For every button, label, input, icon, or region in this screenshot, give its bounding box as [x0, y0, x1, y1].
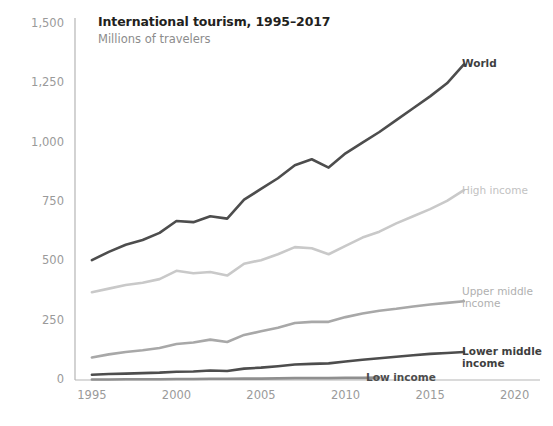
series-label: High income — [462, 184, 528, 196]
series-line-high-income — [92, 190, 464, 292]
y-tick-label: 500 — [8, 253, 64, 267]
series-label: Lower middle income — [462, 345, 542, 369]
y-tick-label: 1,250 — [8, 75, 64, 89]
series-label: Low income — [366, 371, 436, 383]
y-tick-label: 750 — [8, 194, 64, 208]
x-tick-label: 2015 — [415, 388, 444, 402]
x-tick-label: 1995 — [77, 388, 106, 402]
series-line-low-income — [92, 378, 379, 380]
y-tick-label: 1,000 — [8, 135, 64, 149]
y-tick-label: 0 — [8, 372, 64, 386]
x-tick-label: 2000 — [162, 388, 191, 402]
series-label: Upper middle income — [462, 285, 533, 309]
x-tick-label: 2010 — [331, 388, 360, 402]
x-tick-label: 2020 — [500, 388, 529, 402]
x-tick-label: 2005 — [246, 388, 275, 402]
series-line-world — [92, 64, 464, 260]
series-line-upper-middle-income — [92, 301, 464, 357]
y-tick-label: 1,500 — [8, 16, 64, 30]
chart-container: International tourism, 1995–2017 Million… — [0, 0, 553, 426]
series-label: World — [462, 57, 497, 69]
y-tick-label: 250 — [8, 313, 64, 327]
